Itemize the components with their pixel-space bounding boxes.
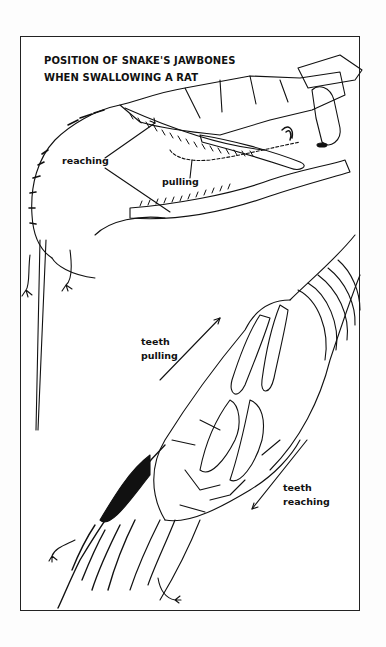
snake-top-view [154,235,360,521]
label-teeth-reaching-line2: reaching [283,495,330,509]
label-reaching: reaching [62,154,109,168]
label-pulling: pulling [162,175,199,189]
label-teeth-pulling-line2: pulling [141,349,178,363]
snake-skull-side-view [120,55,362,219]
reaching-arrow-lower [105,168,170,212]
snake-rat-illustration [0,0,386,647]
rat-top-view [49,445,200,608]
reaching-arrow-upper [105,123,155,158]
label-teeth-pulling-line1: teeth [141,335,170,349]
label-teeth-reaching-line1: teeth [283,481,312,495]
